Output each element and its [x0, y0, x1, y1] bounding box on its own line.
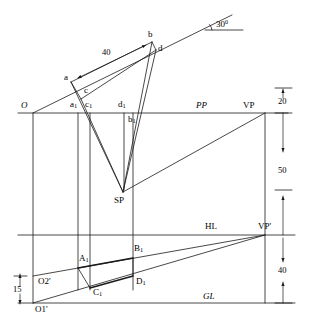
dimension-label-40: 40	[102, 48, 111, 57]
point-label-b: b	[148, 30, 153, 39]
dimension-label-15: 15	[13, 285, 22, 294]
perspective-edge-lower	[33, 235, 265, 303]
angle-label-30deg: 300	[216, 19, 228, 29]
point-label-O: O	[21, 101, 28, 110]
inclined-plan-line	[33, 15, 232, 113]
point-label-O2prime: O2'	[38, 277, 51, 286]
perspective-projection-figure: O a c b d a1 c1 d1 b1 SP PP VP HL VP' A1…	[0, 0, 313, 330]
point-label-a1: a1	[70, 100, 77, 110]
point-label-B1: B1	[134, 244, 143, 254]
point-label-D1: D1	[136, 277, 146, 287]
dimension-label-20: 20	[278, 97, 287, 106]
plan-length-dimension	[78, 45, 146, 78]
point-label-d: d	[158, 44, 163, 53]
plan-edge-cd	[81, 50, 156, 99]
plan-edge-bd	[152, 42, 156, 50]
point-label-d1: d1	[118, 100, 126, 110]
point-label-b1: b1	[128, 115, 136, 125]
point-label-a: a	[64, 73, 68, 82]
object-edge-A1-C1	[78, 268, 90, 288]
dimension-label-50: 50	[278, 166, 287, 175]
dimension-label-40-hl-gl: 40	[278, 266, 287, 275]
point-label-C1: C1	[93, 288, 102, 298]
reference-line-label-GL: GL	[203, 292, 215, 301]
point-label-O1prime: O1'	[35, 305, 48, 314]
reference-line-label-PP: PP	[196, 101, 207, 110]
sp-to-vpprime-line	[123, 113, 265, 192]
perspective-edge-upper	[33, 235, 265, 276]
point-label-A1: A1	[79, 254, 89, 264]
point-label-c: c	[84, 86, 88, 95]
point-label-VPprime: VP'	[258, 222, 271, 231]
point-label-SP: SP	[114, 196, 124, 205]
point-label-VP: VP	[243, 101, 255, 110]
point-label-c1: c1	[85, 100, 92, 110]
reference-line-label-HL: HL	[205, 222, 217, 231]
